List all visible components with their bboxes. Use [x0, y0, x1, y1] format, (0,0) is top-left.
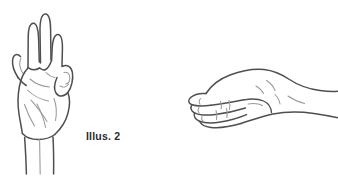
illustration-page: Illus. 2	[0, 0, 338, 177]
caption-illus2: Illus. 2	[86, 130, 120, 142]
hand-three-fingers-up-drawing	[0, 0, 150, 177]
figure-illus2: Illus. 2	[0, 0, 150, 177]
figure-illus3: Illus. 3	[170, 0, 338, 177]
hand-flat-horizontal-drawing	[170, 0, 338, 177]
